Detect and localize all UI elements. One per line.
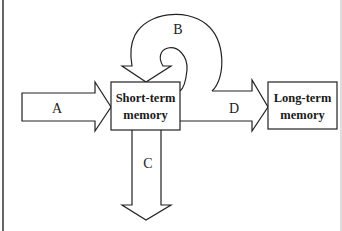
short-term-memory-box: Short-term memory [111,82,180,130]
short-term-line1: Short-term [116,91,176,105]
arrow-a: A [22,82,111,131]
long-term-line2: memory [280,108,325,122]
arrow-c: C [122,130,171,220]
long-term-line1: Long-term [274,91,332,105]
short-term-line2: memory [123,108,168,122]
arrow-c-label: C [143,156,152,171]
arrow-b-label: B [173,22,182,37]
long-term-memory-box: Long-term memory [268,82,337,129]
arrow-b: B [122,14,222,91]
diagram-canvas: A B D C Short-term memory Long-term memo… [0,0,342,231]
arrow-d-label: D [229,101,239,116]
arrow-a-label: A [52,101,63,116]
